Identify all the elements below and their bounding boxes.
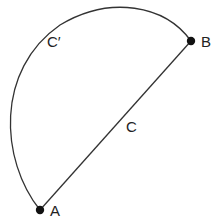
point-a — [36, 206, 44, 214]
label-c-prime: C′ — [47, 33, 61, 50]
line-c — [40, 41, 191, 210]
label-c: C — [126, 118, 137, 135]
arc-c-prime — [10, 7, 191, 210]
label-a: A — [50, 202, 60, 219]
label-b: B — [201, 33, 211, 50]
diagram-canvas: A B C C′ — [0, 0, 217, 221]
point-b — [187, 37, 195, 45]
